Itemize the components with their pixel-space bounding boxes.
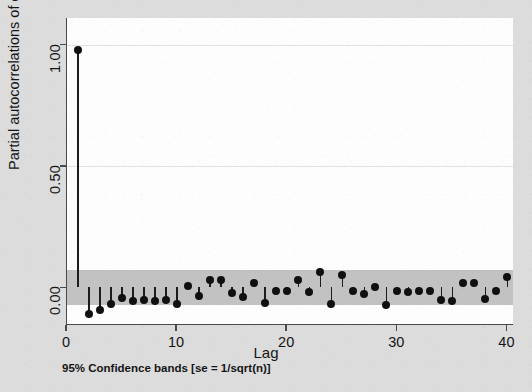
data-point-marker	[283, 287, 291, 295]
data-point-marker	[327, 300, 335, 308]
data-point-marker	[261, 299, 269, 307]
data-point-marker	[404, 288, 412, 296]
data-point-marker	[173, 300, 181, 308]
data-point-marker	[151, 297, 159, 305]
y-tick-label: 0.00	[47, 286, 63, 341]
pac-correlogram-figure: 0.000.501.00 010203040 Partial autocorre…	[0, 0, 532, 392]
data-point-marker	[437, 296, 445, 304]
data-point-marker	[217, 276, 225, 284]
data-point-marker	[272, 287, 280, 295]
data-point-marker	[107, 300, 115, 308]
y-tick-label: 0.50	[47, 165, 63, 220]
x-tick-mark	[285, 325, 286, 331]
data-point-marker	[129, 297, 137, 305]
data-point-marker	[74, 46, 82, 54]
data-point-marker	[96, 306, 104, 314]
x-tick-mark	[506, 325, 507, 331]
data-point-marker	[195, 292, 203, 300]
gridline	[67, 166, 513, 167]
x-tick-mark	[396, 325, 397, 331]
confidence-band-footnote: 95% Confidence bands [se = 1/sqrt(n)]	[62, 362, 271, 374]
data-point-marker	[184, 282, 192, 290]
gridline	[67, 45, 513, 46]
data-point-marker	[338, 271, 346, 279]
data-point-marker	[85, 310, 93, 318]
data-point-marker	[140, 296, 148, 304]
stem-line	[77, 50, 78, 288]
data-point-marker	[228, 289, 236, 297]
plot-area	[66, 18, 513, 325]
y-tick-label: 1.00	[47, 44, 63, 99]
x-tick-mark	[175, 325, 176, 331]
data-point-marker	[382, 301, 390, 309]
x-axis-title: Lag	[0, 344, 532, 361]
x-tick-mark	[65, 325, 66, 331]
data-point-marker	[492, 287, 500, 295]
data-point-marker	[360, 290, 368, 298]
y-axis-title: Partial autocorrelations of e	[6, 0, 22, 170]
data-point-marker	[459, 279, 467, 287]
